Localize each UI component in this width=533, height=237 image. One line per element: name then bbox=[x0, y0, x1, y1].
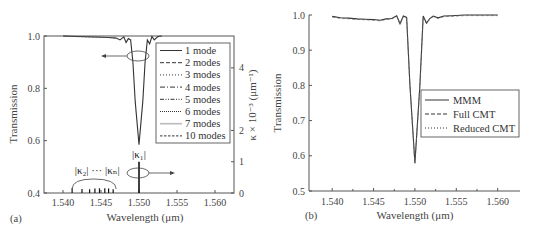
y-tick-label: 0.9 bbox=[293, 45, 306, 56]
legend-label: 6 modes bbox=[185, 106, 220, 117]
y2-tick-label: 4 bbox=[239, 62, 244, 73]
x-tick-label: 1.550 bbox=[404, 196, 427, 207]
x-tick-label: 1.560 bbox=[204, 197, 227, 208]
y-tick-label: 1.0 bbox=[293, 10, 306, 21]
legend-label: 3 modes bbox=[185, 69, 220, 80]
figure: 1.5401.5451.5501.5551.5600.40.60.81.0012… bbox=[0, 0, 533, 237]
ellipse-kappa bbox=[127, 168, 149, 178]
y2-tick-label: 2 bbox=[239, 125, 244, 136]
y2-axis-title: κ × 10⁻³ (μm⁻¹) bbox=[246, 69, 259, 140]
legend-label: Reduced CMT bbox=[453, 123, 516, 134]
y-axis-title: Transmission bbox=[7, 84, 19, 143]
legend-label: 10 modes bbox=[185, 130, 226, 141]
legend-label: MMM bbox=[453, 95, 482, 106]
transmission-curve-1-mode bbox=[63, 36, 162, 145]
legend-label: 5 modes bbox=[185, 94, 220, 105]
y-tick-label: 0.5 bbox=[293, 186, 306, 197]
legend-label: 7 modes bbox=[185, 118, 220, 129]
kappa1-label: |κ₁| bbox=[132, 148, 146, 160]
panel-label-a: (a) bbox=[10, 213, 22, 225]
x-axis-title: Wavelength (μm) bbox=[377, 209, 454, 222]
x-tick-label: 1.555 bbox=[445, 196, 468, 207]
legend-label: 4 modes bbox=[185, 82, 220, 93]
kappa-n-brace bbox=[72, 179, 116, 189]
y2-tick-label: 0 bbox=[239, 188, 244, 199]
x-tick-label: 1.550 bbox=[128, 197, 151, 208]
y-tick-label: 0.8 bbox=[28, 83, 41, 94]
panel-label-b: (b) bbox=[305, 210, 318, 222]
arrow-right-head-icon bbox=[170, 171, 175, 175]
legend-label: 1 mode bbox=[185, 45, 217, 56]
x-tick-label: 1.545 bbox=[90, 197, 113, 208]
x-tick-label: 1.555 bbox=[166, 197, 189, 208]
chart-panel-b: 1.5401.5451.5501.5551.5600.50.60.70.80.9… bbox=[271, 10, 520, 223]
legend-label: Full CMT bbox=[453, 109, 496, 120]
x-tick-label: 1.540 bbox=[52, 197, 75, 208]
y-axis-title: Transmission bbox=[271, 73, 283, 132]
y-tick-label: 0.7 bbox=[293, 115, 306, 126]
y2-tick-label: 1 bbox=[239, 156, 244, 167]
y-tick-label: 0.4 bbox=[28, 188, 41, 199]
chart-panel-a: 1.5401.5451.5501.5551.5600.40.60.81.0012… bbox=[7, 31, 259, 226]
x-tick-label: 1.560 bbox=[486, 196, 509, 207]
y-tick-label: 1.0 bbox=[28, 31, 41, 42]
transmission-curve-full-cmt bbox=[332, 16, 497, 164]
y-tick-label: 0.6 bbox=[293, 150, 306, 161]
x-tick-label: 1.545 bbox=[362, 196, 385, 207]
y-tick-label: 0.6 bbox=[28, 135, 41, 146]
legend-label: 2 modes bbox=[185, 57, 220, 68]
kappa-n-label: |κ₂| ··· |κₙ| bbox=[75, 164, 120, 176]
x-tick-label: 1.540 bbox=[321, 196, 344, 207]
x-axis-title: Wavelength (μm) bbox=[107, 211, 184, 224]
transmission-curve-mmm bbox=[332, 15, 497, 163]
arrow-left-head-icon bbox=[101, 54, 106, 58]
y-tick-label: 0.8 bbox=[293, 80, 306, 91]
